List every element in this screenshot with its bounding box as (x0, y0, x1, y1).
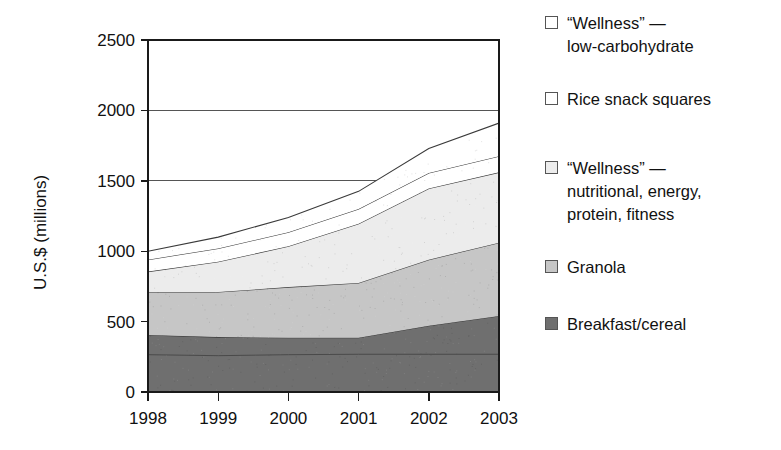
legend-item-1[interactable]: Rice snack squares (545, 88, 781, 111)
x-tick-label-2003: 2003 (480, 409, 518, 428)
legend-swatch-icon (545, 92, 558, 105)
legend-item-label: Rice snack squares (567, 88, 711, 111)
x-axis: 199819992000200120022003 (129, 392, 518, 428)
x-tick-label-2000: 2000 (269, 409, 307, 428)
legend-swatch-icon (545, 317, 558, 330)
legend-item-label: Granola (567, 256, 626, 279)
y-tick-label-2500: 2500 (97, 31, 135, 50)
legend-item-4[interactable]: Breakfast/cereal (545, 313, 781, 336)
y-tick-label-0: 0 (126, 383, 135, 402)
y-tick-label-500: 500 (107, 313, 135, 332)
legend-item-label: “Wellness” — low-carbohydrate (567, 12, 694, 58)
stacked-area-chart-figure: 05001000150020002500 1998199920002001200… (0, 0, 781, 450)
legend-swatch-icon (545, 161, 558, 174)
legend-item-2[interactable]: “Wellness” — nutritional, energy, protei… (545, 157, 781, 226)
legend-swatch-icon (545, 16, 558, 29)
y-tick-label-1000: 1000 (97, 242, 135, 261)
legend-swatch-icon (545, 260, 558, 273)
legend-item-0[interactable]: “Wellness” — low-carbohydrate (545, 12, 781, 58)
y-axis: 05001000150020002500 (97, 31, 148, 402)
legend-item-3[interactable]: Granola (545, 256, 781, 279)
chart-legend: “Wellness” — low-carbohydrateRice snack … (545, 12, 781, 340)
x-tick-label-1999: 1999 (199, 409, 237, 428)
y-tick-label-1500: 1500 (97, 172, 135, 191)
y-axis-title: U.S.$ (millions) (31, 175, 50, 290)
x-tick-label-2002: 2002 (410, 409, 448, 428)
y-tick-label-2000: 2000 (97, 101, 135, 120)
legend-item-label: “Wellness” — nutritional, energy, protei… (567, 157, 702, 226)
x-tick-label-1998: 1998 (129, 409, 167, 428)
x-tick-label-2001: 2001 (340, 409, 378, 428)
legend-item-label: Breakfast/cereal (567, 313, 686, 336)
